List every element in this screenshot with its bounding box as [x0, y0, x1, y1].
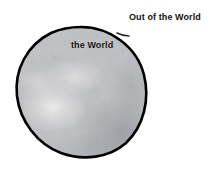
rim-mark-icon: [117, 33, 129, 36]
outer-region-label: Out of the World: [129, 12, 201, 22]
diagram-canvas: the World Out of the World: [0, 0, 210, 174]
inner-region-label: the World: [71, 40, 113, 50]
